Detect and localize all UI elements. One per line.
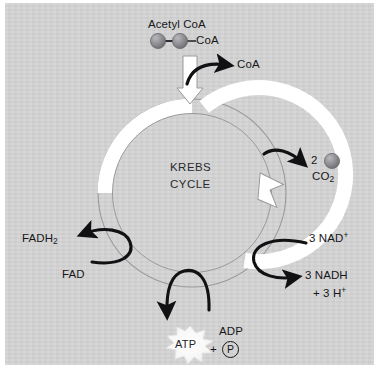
label-h-plus: + 3 H+: [313, 286, 346, 301]
label-fadh2: FADH2: [22, 232, 58, 247]
cycle-title-line-1: KREBS: [170, 159, 211, 176]
acetyl-coa-molecule: [150, 33, 196, 48]
label-coa-bound: CoA: [196, 34, 219, 48]
label-nadh: 3 NADH: [305, 269, 348, 283]
label-fadh2-subscript: 2: [53, 236, 58, 246]
label-adp: ADP: [219, 325, 243, 339]
co2-release-arrow: [264, 150, 303, 163]
label-co2-count: 2: [311, 154, 318, 168]
phosphate-group-icon: P: [222, 341, 239, 358]
label-co2-text: CO: [312, 170, 329, 182]
co2-molecule: [324, 153, 339, 168]
cycle-title-line-2: CYCLE: [170, 176, 211, 193]
label-nad-plus-text: 3 NAD: [309, 232, 343, 244]
label-co2-subscript: 2: [329, 174, 334, 184]
label-h-plus-superscript: +: [341, 285, 346, 295]
atp-synthesis-arrow: [167, 270, 209, 314]
krebs-cycle-diagram: Acetyl CoA CoA CoA KREBS CYCLE 2 CO2 FAD…: [0, 0, 374, 387]
label-nad-plus: 3 NAD+: [309, 231, 348, 246]
label-acetyl-coa: Acetyl CoA: [148, 18, 206, 32]
label-co2: CO2: [312, 170, 334, 185]
label-h-plus-text: + 3 H: [313, 287, 341, 299]
diagram-vector-layer: [0, 0, 374, 387]
label-fad: FAD: [62, 268, 85, 282]
label-fadh2-text: FADH: [22, 232, 53, 244]
fad-reduction-arrow: [83, 230, 131, 263]
cycle-direction-arrowhead: [255, 171, 286, 210]
label-coa-released: CoA: [237, 58, 260, 72]
label-atp: ATP: [175, 338, 196, 350]
label-plus-sign: +: [210, 343, 217, 357]
label-nad-plus-superscript: +: [343, 230, 348, 240]
